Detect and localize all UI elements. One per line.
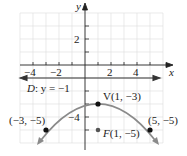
y-axis <box>83 3 90 150</box>
y-tick-label: −4 <box>68 111 80 123</box>
y-tick-label: 2 <box>74 33 80 45</box>
x-tick-label: −2 <box>50 66 62 78</box>
y-axis-label: y <box>75 0 81 12</box>
focus-label: F(1, −5) <box>102 127 140 140</box>
vertex-label: V(1, −3) <box>103 90 141 103</box>
focus-point <box>96 128 101 133</box>
point-right <box>147 127 152 132</box>
x-axis-label: x <box>168 66 174 78</box>
x-tick-label: 2 <box>107 66 113 78</box>
point-right-label: (5, −5) <box>148 114 178 127</box>
point-left <box>43 127 48 132</box>
x-tick-label: −4 <box>24 66 36 78</box>
directrix-line <box>20 76 160 81</box>
parabola-graph: y x −4 −2 2 4 2 −4 D: y = −1 V(1, −3) F(… <box>0 0 187 156</box>
directrix-label: D: y = −1 <box>26 82 70 94</box>
x-tick-label: 4 <box>133 66 139 78</box>
point-left-label: (−3, −5) <box>9 114 46 127</box>
vertex-point <box>95 101 100 106</box>
